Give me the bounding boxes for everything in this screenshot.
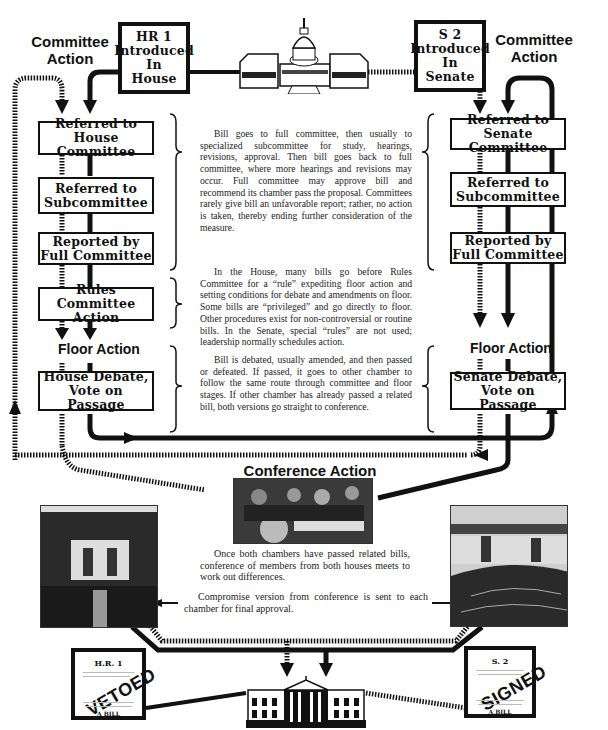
house-introduced-where: In House bbox=[122, 58, 186, 86]
compromise-explanation: Compromise version from conference is se… bbox=[184, 591, 428, 614]
house-chamber-image bbox=[41, 506, 158, 628]
senate-committee-action-heading: Committee Action bbox=[494, 31, 574, 65]
signed-bill-document: S. 2 SIGNED A BILL bbox=[464, 646, 536, 718]
house-to-senate-arrowhead bbox=[124, 432, 138, 444]
house-step-reported-full[interactable]: Reported by Full Committee bbox=[38, 232, 154, 265]
senate-step-debate-vote[interactable]: Senate Debate, Vote on Passage bbox=[450, 372, 566, 410]
house-bill-id: HR 1 bbox=[136, 30, 172, 44]
house-entry-arrow-dotted bbox=[55, 100, 69, 114]
house-introduced-label: Introduced bbox=[114, 44, 194, 58]
senate-step-referred-committee[interactable]: Referred to Senate Committee bbox=[450, 118, 566, 150]
house-step-referred-committee[interactable]: Referred to House Committee bbox=[38, 121, 154, 155]
vetoed-bill-document: H.R. 1 VETOED A BILL bbox=[71, 648, 146, 720]
senate-floor-action-heading: Floor Action bbox=[470, 340, 552, 356]
senate-introduced-where: In Senate bbox=[418, 56, 482, 84]
final-solid-arrowhead bbox=[319, 663, 333, 677]
legislative-process-diagram: Committee Action Committee Action HR 1 I… bbox=[0, 0, 608, 730]
senate-step-referred-subcommittee[interactable]: Referred to Subcommittee bbox=[450, 172, 566, 207]
house-introduced-box[interactable]: HR 1 Introduced In House bbox=[118, 22, 190, 94]
house-step-debate-vote[interactable]: House Debate, Vote on Passage bbox=[38, 371, 154, 411]
conference-photo bbox=[233, 478, 373, 544]
signed-to-whitehouse-line bbox=[366, 693, 466, 708]
final-solid-line bbox=[132, 627, 482, 650]
senate-step-reported-full[interactable]: Reported by Full Committee bbox=[450, 232, 566, 264]
house-floor-action-heading: Floor Action bbox=[58, 341, 140, 357]
white-house-icon bbox=[246, 676, 366, 730]
senate-chamber-photo bbox=[450, 505, 568, 627]
vetoed-to-whitehouse-line bbox=[146, 693, 246, 708]
conference-people-image bbox=[234, 479, 373, 544]
vetoed-bill-id: H.R. 1 bbox=[75, 658, 142, 668]
final-dotted-arrowhead bbox=[280, 663, 294, 677]
senate-introduced-label: Introduced bbox=[410, 42, 490, 56]
conference-explanation: Once both chambers have passed related b… bbox=[200, 548, 410, 583]
house-intro-down-line bbox=[90, 72, 120, 100]
house-step-rules-committee[interactable]: Rules Committee Action bbox=[38, 287, 154, 321]
conference-action-heading: Conference Action bbox=[240, 462, 380, 479]
final-dotted-line bbox=[150, 626, 468, 641]
house-step-referred-subcommittee[interactable]: Referred to Subcommittee bbox=[38, 177, 154, 214]
senate-introduced-box[interactable]: S 2 Introduced In Senate bbox=[414, 20, 486, 92]
rules-explanation: In the House, many bills go before Rules… bbox=[200, 266, 412, 348]
signed-bill-subtitle: A BILL bbox=[468, 708, 532, 715]
senate-to-house-dotted bbox=[470, 414, 480, 455]
capitol-building-icon bbox=[238, 14, 370, 94]
signed-bill-id: S. 2 bbox=[468, 656, 532, 666]
senate-chamber-image bbox=[451, 506, 568, 627]
floor-explanation: Bill is debated, usually amended, and th… bbox=[200, 354, 412, 413]
house-return-arrow-up bbox=[9, 400, 21, 414]
house-committee-action-heading: Committee Action bbox=[30, 33, 110, 67]
vetoed-bill-subtitle: A BILL bbox=[75, 710, 142, 717]
house-chamber-photo bbox=[40, 505, 158, 628]
house-dotted-return bbox=[15, 414, 468, 455]
committee-explanation: Bill goes to full committee, then usuall… bbox=[200, 128, 412, 233]
house-entry-arrow-solid bbox=[83, 100, 97, 114]
senate-bill-id: S 2 bbox=[439, 28, 462, 42]
